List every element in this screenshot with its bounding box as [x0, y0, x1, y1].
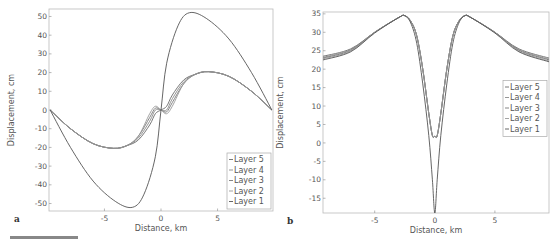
x-tick-label: -5	[371, 216, 379, 225]
legend-entry: Layer 4	[234, 166, 264, 175]
y-tick-label: 25	[311, 46, 321, 55]
y-tick-label: -10	[309, 175, 321, 184]
legend-entry: Layer 1	[510, 125, 540, 134]
y-tick-label: 30	[311, 28, 321, 37]
y-axis-label: Displacement, cm	[7, 74, 16, 146]
y-tick-label: 0	[42, 106, 47, 115]
y-tick-label: -30	[35, 162, 47, 171]
y-tick-label: 40	[37, 31, 47, 40]
y-tick-label: 5	[316, 120, 321, 129]
y-axis-label: Displacement, cm	[276, 76, 285, 148]
y-tick-label: -15	[309, 194, 321, 203]
legend-entry: Layer 2	[234, 187, 264, 196]
legend: Layer 5Layer 4Layer 3Layer 2Layer 1	[227, 153, 271, 209]
y-tick-label: 10	[311, 102, 321, 111]
legend-entry: Layer 4	[510, 93, 540, 102]
y-tick-label: -20	[35, 143, 47, 152]
y-tick-label: 15	[311, 83, 321, 92]
y-tick-label: 20	[311, 65, 321, 74]
x-tick-label: -5	[101, 214, 109, 223]
panel-label: a	[14, 214, 20, 224]
legend-entry: Layer 5	[234, 155, 264, 164]
x-tick-label: 0	[432, 216, 437, 225]
legend: Layer 5Layer 4Layer 3Layer 2Layer 1	[503, 81, 547, 137]
x-tick-label: 0	[159, 214, 164, 223]
y-tick-label: 10	[37, 87, 47, 96]
y-tick-label: -10	[35, 124, 47, 133]
x-axis-label: Distance, km	[135, 224, 188, 233]
y-tick-label: -50	[35, 199, 47, 208]
x-tick-label: 5	[493, 216, 498, 225]
y-tick-label: 30	[37, 49, 47, 58]
legend-entry: Layer 5	[510, 83, 540, 92]
legend-entry: Layer 3	[234, 176, 264, 185]
y-tick-label: 20	[37, 68, 47, 77]
legend-entry: Layer 1	[234, 197, 264, 206]
y-tick-label: -5	[314, 157, 322, 166]
panel-label: b	[287, 216, 293, 226]
y-tick-label: 50	[37, 12, 47, 21]
y-tick-label: -40	[35, 180, 47, 189]
chart-panel-b: 35302520151050-5-10-15-505Distance, kmDi…	[276, 9, 549, 235]
y-tick-label: 35	[311, 9, 321, 18]
y-tick-label: 0	[316, 139, 321, 148]
scale-bar	[10, 236, 78, 239]
figure: 50403020100-10-20-30-40-50-505Distance, …	[0, 0, 554, 239]
x-tick-label: 5	[215, 214, 220, 223]
legend-entry: Layer 2	[510, 114, 540, 123]
chart-panel-a: 50403020100-10-20-30-40-50-505Distance, …	[7, 9, 273, 233]
x-axis-label: Distance, km	[410, 226, 463, 235]
legend-entry: Layer 3	[510, 104, 540, 113]
